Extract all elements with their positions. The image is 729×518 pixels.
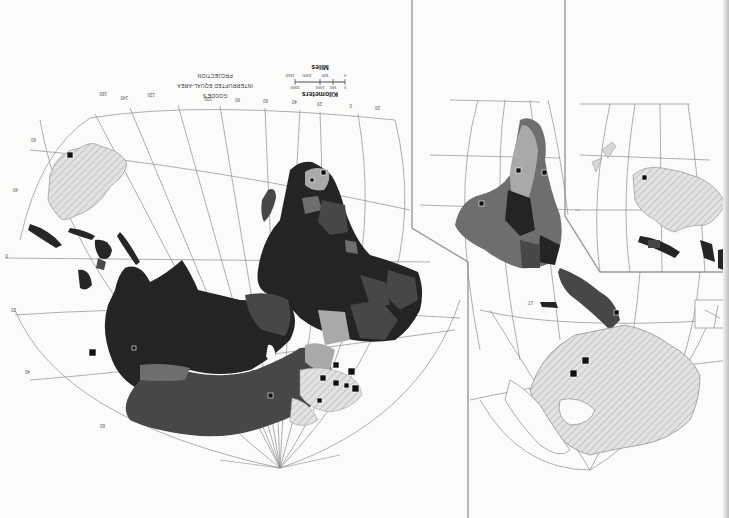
capital-marker <box>268 393 273 398</box>
capital-marker <box>344 383 349 388</box>
lon-label: 80 <box>234 97 240 102</box>
lat-label: 40 <box>24 369 30 374</box>
capital-marker <box>542 170 547 175</box>
capital-marker <box>310 178 314 182</box>
capital-marker <box>348 368 355 375</box>
capital-marker <box>479 201 484 206</box>
kilometers-label: Kilometers <box>302 91 338 98</box>
lat-label: 20 <box>10 307 16 312</box>
km-tick: 1000 <box>315 85 325 90</box>
capital-marker <box>333 380 339 386</box>
island-region <box>96 258 106 270</box>
lon-label: 20 <box>316 101 322 106</box>
capital-marker <box>614 310 619 315</box>
lon-label: 60 <box>262 98 268 103</box>
capital-marker <box>320 375 326 381</box>
annotation-label: 17 <box>528 301 534 306</box>
km-tick: 2000 <box>290 85 300 90</box>
capital-marker <box>67 152 73 158</box>
madagascar <box>261 189 276 222</box>
km-tick: 0 <box>343 85 346 90</box>
mi-tick: 0 <box>343 73 346 78</box>
capital-marker <box>516 168 521 173</box>
capital-marker <box>317 398 322 403</box>
lon-label: 160 <box>99 91 107 96</box>
lon-label: 120 <box>147 92 155 97</box>
mi-tick: 1000 <box>302 73 312 78</box>
capital-marker <box>333 362 339 368</box>
capital-marker <box>582 357 589 364</box>
capital-marker <box>352 385 359 392</box>
lat-label: 0 <box>5 253 8 258</box>
capital-marker <box>132 346 136 350</box>
title-line-3: PROJECTION <box>197 73 232 79</box>
km-tick: 500 <box>329 85 336 90</box>
miles-label: Miles <box>311 64 329 71</box>
scale-bar: Kilometers 0 500 1000 2000 0 500 1000 15… <box>285 64 346 98</box>
capital-marker <box>89 349 96 356</box>
capital-marker <box>321 170 326 175</box>
lat-label: 40 <box>12 187 18 192</box>
capital-marker <box>570 370 577 377</box>
world-map: GOODE'S INTERRUPTED EQUAL-AREA PROJECTIO… <box>0 0 729 518</box>
title-line-2: INTERRUPTED EQUAL-AREA <box>177 83 253 89</box>
north-america-landmass <box>505 325 700 455</box>
mi-tick: 500 <box>321 73 328 78</box>
lat-label: 60 <box>30 137 36 142</box>
lat-label: 60 <box>99 423 105 428</box>
capital-marker <box>642 175 647 180</box>
mi-tick: 1500 <box>285 73 295 78</box>
lon-label: 0 <box>349 103 352 108</box>
projection-title: GOODE'S INTERRUPTED EQUAL-AREA PROJECTIO… <box>177 73 253 99</box>
lon-label: 140 <box>120 95 128 100</box>
page-edge-shadow <box>723 0 729 518</box>
australia-landmass <box>48 143 127 219</box>
south-america-landmass <box>455 118 562 268</box>
lon-label: 100 <box>204 96 212 101</box>
lon-label: 20 <box>374 105 380 110</box>
lon-label: 40 <box>291 99 297 104</box>
central-america: 17 <box>528 268 620 330</box>
